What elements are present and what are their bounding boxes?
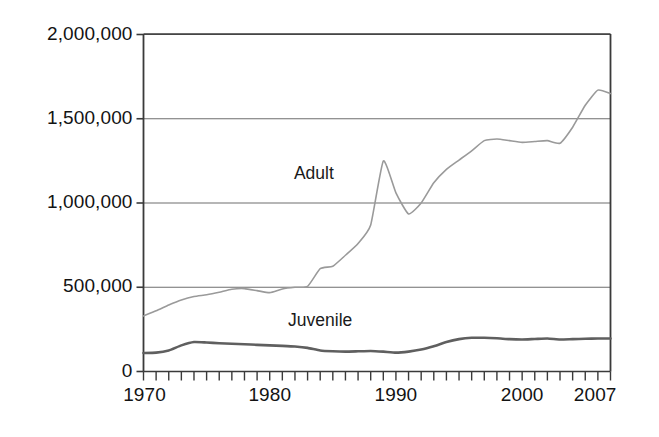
line-chart	[0, 0, 659, 437]
x-axis-label-1990: 1990	[375, 384, 418, 406]
y-axis-label-500000: 500,000	[63, 275, 132, 297]
y-axis-label-1000000: 1,000,000	[47, 191, 132, 213]
y-axis-label-1500000: 1,500,000	[47, 107, 132, 129]
series-label-adult: Adult	[294, 163, 334, 184]
x-axis-label-1980: 1980	[248, 384, 291, 406]
x-axis-label-2007: 2007	[574, 384, 617, 406]
chart-container: 0500,0001,000,0001,500,0002,000,00019701…	[0, 0, 659, 437]
series-label-juvenile: Juvenile	[288, 310, 352, 331]
x-axis-label-1970: 1970	[123, 384, 166, 406]
y-axis-label-2000000: 2,000,000	[47, 23, 132, 45]
y-axis-label-0: 0	[122, 360, 133, 382]
series-line-juvenile	[144, 338, 611, 353]
x-axis-label-2000: 2000	[501, 384, 544, 406]
